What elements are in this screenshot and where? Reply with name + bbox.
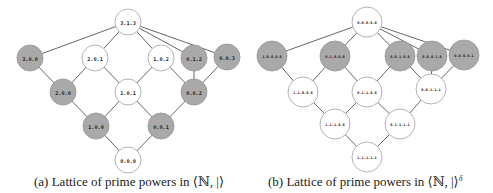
lattice-node: 0.0.1: [148, 113, 174, 139]
lattice-node: 1.1.0.0.0: [288, 77, 318, 107]
node-label: 0.0.1: [153, 124, 169, 130]
node-label: 3.1.3: [120, 20, 136, 26]
lattice-node: 0.0.0.1.0: [417, 41, 447, 71]
node-label: 1.0.0.0.0: [262, 55, 281, 59]
lattice-node: 0.0.3: [214, 44, 240, 70]
lattice-node: 0.0.1.0.0: [385, 41, 415, 71]
node-label: 1.1.1.0.0: [325, 123, 344, 127]
lattice-node: 0.1.2: [181, 45, 207, 71]
node-label: 3.0.0: [22, 56, 38, 62]
lattice-node: 1.0.1: [115, 79, 141, 105]
lattice-node: 3.1.3: [115, 9, 141, 35]
node-label: 0.0.1.0.0: [390, 55, 409, 59]
caption-b-text: (b) Lattice of prime powers in ⟨ℕ, |⟩: [268, 174, 459, 189]
lattice-node: 1.0.0: [83, 113, 109, 139]
lattice-node: 0.0.0.0.0: [352, 7, 382, 37]
lattice-node: 0.0.0.0.1: [449, 40, 479, 70]
lattice-node: 1.0.0.0.0: [257, 41, 287, 71]
lattice-node: 1.1.1.0.0: [320, 109, 350, 139]
node-label: 1.1.0.0.0: [293, 91, 312, 95]
lattice-node: 1.0.2: [148, 45, 174, 71]
caption-b: (b) Lattice of prime powers in ⟨ℕ, |⟩δ: [268, 174, 462, 190]
node-label: 0.0.3: [219, 55, 235, 61]
node-label: 1.0.2: [153, 56, 169, 62]
node-label: 0.0.0.0.1: [454, 54, 473, 58]
node-label: 0.0.2: [186, 90, 202, 96]
node-label: 0.0.1.1.1: [421, 88, 440, 92]
node-label: 0.1.1.1.1: [390, 123, 409, 127]
node-label: 1.0.1: [120, 90, 136, 96]
node-label: 2.0.1: [87, 56, 103, 62]
lattice-node: 0.1.0.0.0: [320, 41, 350, 71]
lattice-node: 0.0.1.1.1: [416, 74, 446, 104]
caption-b-superscript: δ: [459, 174, 463, 183]
lattice-diagrams: 3.1.33.0.02.0.11.0.20.1.20.0.32.0.01.0.1…: [0, 0, 493, 193]
lattice-node: 2.0.1: [82, 45, 108, 71]
lattice-edge: [30, 22, 128, 58]
lattice-node: 1.1.1.1.1: [352, 142, 382, 172]
node-label: 0.0.0.1.0: [422, 55, 441, 59]
node-label: 2.0.0: [55, 90, 71, 96]
node-label: 1.1.1.1.1: [357, 156, 376, 160]
lattice-node: 2.0.0: [50, 79, 76, 105]
node-label: 1.0.0: [88, 124, 104, 130]
node-label: 0.1.1.0.0: [357, 91, 376, 95]
caption-a: (a) Lattice of prime powers in ⟨ℕ, |⟩: [34, 174, 224, 190]
caption-a-text: (a) Lattice of prime powers in ⟨ℕ, |⟩: [34, 174, 224, 189]
lattice-node: 0.0.0: [115, 147, 141, 173]
lattice-nodes-a: 3.1.33.0.02.0.11.0.20.1.20.0.32.0.01.0.1…: [17, 9, 240, 173]
lattice-node: 0.1.1.1.1: [385, 109, 415, 139]
lattice-nodes-b: 0.0.0.0.01.0.0.0.00.1.0.0.00.0.1.0.00.0.…: [257, 7, 479, 172]
lattice-node: 0.1.1.0.0: [352, 77, 382, 107]
lattice-edge: [128, 22, 227, 57]
node-label: 0.0.0: [120, 158, 136, 164]
lattice-node: 3.0.0: [17, 45, 43, 71]
node-label: 0.1.2: [186, 56, 202, 62]
lattice-node: 0.0.2: [181, 79, 207, 105]
prime-power-lattice-b: 0.0.0.0.01.0.0.0.00.1.0.0.00.0.1.0.00.0.…: [257, 7, 479, 172]
node-label: 0.1.0.0.0: [325, 55, 344, 59]
prime-power-lattice-a: 3.1.33.0.02.0.11.0.20.1.20.0.32.0.01.0.1…: [17, 9, 240, 173]
node-label: 0.0.0.0.0: [357, 21, 376, 25]
